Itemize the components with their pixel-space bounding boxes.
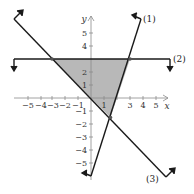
y-tick-label: −1	[75, 107, 87, 116]
y-tick-label: −4	[75, 146, 87, 155]
line-label-3: (3)	[146, 174, 159, 184]
y-tick-labels: 5 4 2 1 −1 −2 −3 −4 −5	[75, 29, 87, 168]
y-tick-label: 1	[82, 81, 87, 90]
x-tick-label: −5	[22, 101, 34, 110]
y-tick-label: −2	[75, 120, 87, 129]
line-label-2: (2)	[173, 54, 186, 64]
x-tick-label: 3	[127, 101, 132, 110]
x-tick-label: −4	[35, 101, 47, 110]
y-tick-label: 4	[82, 42, 87, 51]
x-tick-label: 1	[101, 101, 106, 110]
y-tick-label: 5	[82, 29, 87, 38]
y-axis-label: y	[80, 14, 87, 24]
x-axis-label: x	[164, 101, 169, 111]
x-tick-label: 5	[153, 101, 158, 110]
graph: −5 −4 −3 −2 −1 1 3 4 5 x y 5 4 2 1 −1 −2…	[0, 0, 194, 194]
x-tick-label: −3	[47, 101, 59, 110]
x-tick-label: −2	[59, 101, 71, 110]
y-tick-label: −3	[75, 133, 87, 142]
y-tick-label: 2	[82, 68, 87, 77]
x-tick-labels: −5 −4 −3 −2 −1 1 3 4 5	[22, 101, 158, 110]
line-label-1: (1)	[143, 14, 156, 24]
y-tick-label: −5	[75, 159, 87, 168]
x-tick-label: 4	[140, 101, 145, 110]
